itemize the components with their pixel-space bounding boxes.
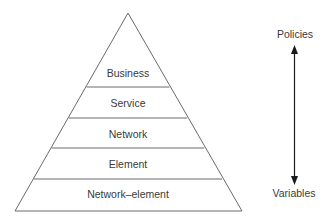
layer-label-element: Element: [109, 158, 148, 170]
arrow-down-icon: [291, 176, 298, 185]
axis-label-policies: Policies: [277, 28, 313, 40]
layer-label-business: Business: [107, 67, 150, 79]
pyramid-diagram: Business Service Network Element Network…: [0, 0, 333, 221]
pyramid-outline: [15, 13, 242, 211]
layer-label-network-element: Network–element: [87, 188, 169, 200]
layer-label-service: Service: [110, 97, 145, 109]
layer-label-network: Network: [109, 128, 148, 140]
arrow-up-icon: [291, 45, 298, 54]
axis-label-variables: Variables: [273, 187, 316, 199]
